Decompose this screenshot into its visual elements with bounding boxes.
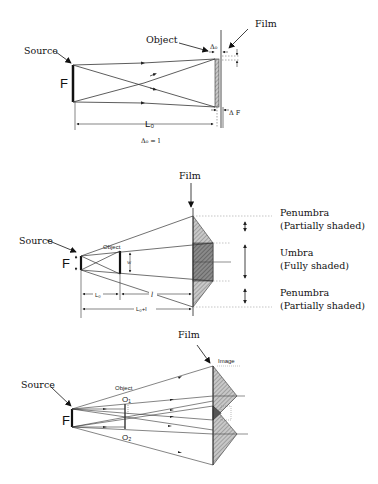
penumbra-top-title: Penumbra <box>280 207 329 218</box>
object-plate <box>215 59 219 107</box>
object-label: Object <box>103 244 121 250</box>
source-label: Source <box>21 379 55 390</box>
l-label: l <box>151 291 153 299</box>
film-label: Film <box>179 170 201 181</box>
focal-spot-label: F <box>62 413 70 428</box>
delta0-label: Δ₀ <box>210 43 218 51</box>
focal-spot-label: F <box>60 76 68 91</box>
object-label: Object <box>146 34 178 45</box>
equation-label: Δ₀ = l <box>141 137 160 145</box>
radiography-diagram: Source Object Film F Δ₀ Δ F L₀ Δ₀ = l <box>0 0 378 484</box>
O2-label: O₂ <box>122 433 131 442</box>
panel-penumbra-umbra: w L₀ l L₀+l Film Source Object F Penumbr… <box>19 170 365 318</box>
penumbra-bottom-subtitle: (Partially shaded) <box>280 300 365 311</box>
source-label: Source <box>24 45 58 56</box>
panel-two-point-object: Film Image Source Object O₁ O₂ F <box>21 329 248 465</box>
focal-spot-label: F <box>62 256 70 271</box>
penumbra-bottom-title: Penumbra <box>280 287 329 298</box>
umbra-title: Umbra <box>280 247 314 258</box>
L0-label: L₀ <box>95 292 101 298</box>
L0-plus-l-label: L₀+l <box>136 306 147 312</box>
O1-label: O₁ <box>122 395 131 404</box>
film-label: Film <box>255 18 277 29</box>
penumbra-top-subtitle: (Partially shaded) <box>280 220 365 231</box>
source-label: Source <box>19 235 53 246</box>
film-label: Film <box>178 329 200 340</box>
umbra-subtitle: (Fully shaded) <box>280 260 349 271</box>
object-label: Object <box>115 385 133 391</box>
object-width-label: w <box>127 259 132 265</box>
L0-label: L₀ <box>145 118 154 129</box>
image-label: Image <box>218 358 235 364</box>
deltaF-label: Δ F <box>229 109 241 117</box>
panel-contact-radiography: Source Object Film F Δ₀ Δ F L₀ Δ₀ = l <box>24 18 277 145</box>
